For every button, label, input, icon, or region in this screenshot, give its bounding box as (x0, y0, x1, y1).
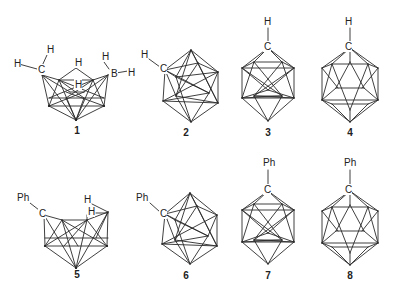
cage-edge (268, 96, 282, 121)
atom-label: Ph (136, 192, 148, 203)
vertex-dot (48, 105, 50, 107)
cage-edge (42, 75, 70, 92)
compound-number-label: 1 (74, 125, 80, 136)
vertex-dot (103, 105, 105, 107)
atom-label: C (38, 64, 45, 75)
compound-6: PhC6 (135, 192, 217, 281)
cage-edge (350, 191, 378, 211)
cage-edge (322, 100, 350, 122)
cage-edge (107, 212, 108, 246)
cage-edge (332, 64, 350, 110)
cage-edge (191, 93, 209, 122)
cage-edge (66, 92, 104, 106)
atom-label: H (47, 44, 54, 55)
atom-label: C (160, 208, 167, 219)
atom-label: C (345, 184, 352, 195)
atom-label: H (84, 194, 91, 205)
substituent-bond (30, 203, 39, 210)
atom-label: H (75, 79, 82, 90)
atom-label: B (111, 68, 118, 79)
cage-edge (336, 62, 350, 88)
cage-edge (208, 215, 217, 236)
atom-label: Ph (344, 157, 356, 168)
atom-label: C (345, 41, 352, 52)
cage-edge (332, 247, 350, 265)
compound-1: HHCHHBHH1 (13, 44, 135, 136)
atom-label: Ph (17, 192, 29, 203)
cage-edge (76, 220, 87, 268)
cage-edge (190, 246, 217, 264)
atom-label: H (88, 206, 95, 217)
cage-edge (162, 244, 190, 264)
cage-edge (163, 101, 191, 122)
cage-edge (268, 240, 282, 264)
cage-edge (242, 242, 268, 264)
substituent-bond (104, 62, 109, 69)
substituent-bond (149, 59, 160, 67)
atom-label: Ph (263, 157, 275, 168)
cage-edge (350, 205, 364, 231)
atom-label: H (14, 58, 21, 69)
cage-edge (44, 215, 45, 246)
compound-number-label: 2 (183, 127, 189, 138)
cage-edge (332, 207, 350, 253)
cage-edge (190, 193, 217, 215)
cage-edge (242, 98, 268, 121)
compound-number-label: 3 (265, 127, 271, 138)
vertex-dot (44, 245, 46, 247)
cage-edge (350, 48, 378, 68)
substituent-bond (150, 203, 160, 212)
cage-edge (49, 106, 76, 120)
atom-label: C (39, 208, 46, 219)
cage-edge (176, 63, 198, 96)
cage-edge (45, 220, 62, 246)
cage-edge (87, 220, 107, 246)
compound-number-label: 4 (347, 127, 353, 138)
atom-label: C (264, 41, 271, 52)
cage-edge (350, 64, 368, 110)
cage-edge (350, 48, 368, 64)
compound-8: PhC8 (322, 157, 378, 281)
cage-edge (350, 207, 368, 253)
atom-label: H (345, 16, 352, 27)
compound-3: HC3 (242, 16, 294, 138)
cage-edge (350, 104, 368, 122)
atom-label: H (75, 57, 82, 68)
compound-number-label: 6 (183, 270, 189, 281)
cage-edge (268, 191, 294, 210)
cage-edge (254, 96, 268, 121)
cage-edge (268, 98, 294, 121)
cage-edge (190, 236, 208, 264)
compound-7: PhC7 (242, 157, 294, 281)
cage-edge (268, 48, 294, 68)
compound-2: HC2 (140, 49, 218, 138)
compound-5: PhCHH5 (16, 192, 108, 280)
cage-edge (45, 220, 87, 246)
cage-edge (209, 72, 218, 93)
vertex-dot (75, 119, 77, 121)
cage-edge (350, 100, 378, 122)
cage-edge (254, 240, 268, 264)
cage-edge (332, 104, 350, 122)
cage-edge (191, 103, 218, 122)
compound-4: HC4 (322, 16, 378, 138)
atom-label: H (128, 67, 135, 78)
cage-edge (350, 62, 364, 88)
cage-edge (322, 243, 350, 265)
compound-number-label: 5 (74, 269, 80, 280)
cage-edge (175, 240, 190, 264)
vertex-dot (106, 245, 108, 247)
atom-label: C (264, 184, 271, 195)
cage-edge (268, 242, 294, 264)
cage-edge (350, 247, 368, 265)
atom-label: H (264, 16, 271, 27)
atom-label: H (141, 49, 148, 60)
cage-edge (45, 246, 76, 268)
atom-label: C (160, 63, 167, 74)
compound-number-label: 8 (347, 270, 353, 281)
carborane-structures-figure: HHCHHBHH1HC2HC3HC4PhCHH5PhC6PhC7PhC8 (0, 0, 398, 286)
cage-edge (59, 68, 76, 80)
cage-edge (350, 191, 368, 207)
atom-label: H (102, 51, 109, 62)
cage-edge (49, 80, 59, 106)
